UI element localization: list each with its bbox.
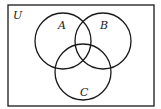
set-a-label: A — [57, 19, 66, 32]
venn-diagram: U A B C — [0, 0, 161, 109]
set-b-label: B — [99, 19, 108, 32]
universe-label: U — [13, 9, 23, 22]
set-c-label: C — [80, 86, 89, 99]
